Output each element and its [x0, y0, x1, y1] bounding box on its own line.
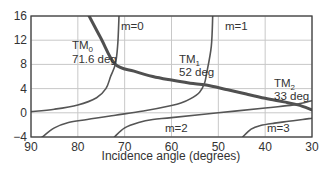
- y-tick-label: 16: [14, 9, 28, 23]
- annotation-tm0: TM0 71.6 deg: [72, 39, 117, 65]
- x-tick-label: 80: [71, 140, 85, 154]
- y-axis-ticks: 1612840−4: [13, 9, 27, 144]
- y-tick-label: 12: [14, 33, 28, 47]
- label-m1: m=1: [225, 20, 248, 32]
- x-tick-label: 90: [24, 140, 38, 154]
- x-tick-label: 40: [258, 140, 272, 154]
- y-tick-label: 0: [20, 106, 27, 120]
- grid-lines: [31, 16, 312, 137]
- tm2-main: TM: [274, 77, 291, 89]
- y-tick-label: 4: [20, 82, 27, 96]
- tm2-value: 33 deg: [274, 90, 309, 102]
- tm1-value: 52 deg: [179, 66, 214, 78]
- svg-text:TM0: TM0: [72, 39, 94, 54]
- label-m0: m=0: [121, 20, 144, 32]
- tm1-main: TM: [179, 53, 196, 65]
- annotation-tm1: TM1 52 deg: [179, 53, 214, 78]
- annotation-tm2: TM2 33 deg: [274, 77, 309, 102]
- tm0-value: 71.6 deg: [72, 53, 117, 65]
- x-tick-label: 30: [305, 140, 319, 154]
- chart: 1612840−4 90807060504030 Incidence angle…: [0, 0, 332, 172]
- y-tick-label: 8: [20, 57, 27, 71]
- x-axis-title: Incidence angle (degrees): [102, 149, 241, 163]
- label-m3: m=3: [267, 122, 290, 134]
- label-m2: m=2: [165, 122, 188, 134]
- tm0-main: TM: [72, 39, 89, 51]
